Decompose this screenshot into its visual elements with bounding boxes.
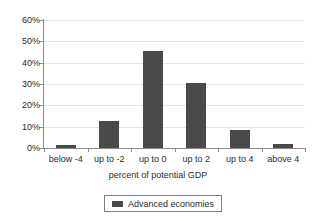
y-tick-label-0: 0%: [6, 144, 40, 153]
x-tick-label: up to 0: [131, 154, 175, 165]
x-tick-mark: [262, 148, 263, 152]
x-axis-title: percent of potential GDP: [0, 170, 316, 181]
x-tick-label: below -4: [44, 154, 88, 165]
y-tick-label-20: 20%: [6, 101, 40, 110]
x-tick-mark: [88, 148, 89, 152]
y-axis-labels: 60% 50% 40% 30% 20% 10% 0%: [4, 0, 40, 221]
bar-chart: 60% 50% 40% 30% 20% 10% 0% below -4up to…: [0, 0, 316, 221]
y-tick-label-10: 10%: [6, 123, 40, 132]
bar-slot: [262, 20, 306, 148]
bar-slot: [218, 20, 262, 148]
legend-label-advanced-economies: Advanced economies: [128, 199, 214, 209]
x-tick-label: above 4: [262, 154, 306, 165]
y-tick-label-30: 30%: [6, 80, 40, 89]
x-axis-labels: below -4up to -2up to 0up to 2up to 4abo…: [44, 154, 305, 165]
y-tick-label-50: 50%: [6, 37, 40, 46]
x-axis-ticks: [44, 148, 305, 153]
bar-slot: [131, 20, 175, 148]
bar: [99, 121, 119, 148]
bar-series-advanced-economies: [44, 20, 305, 148]
x-tick-mark: [131, 148, 132, 152]
bar-slot: [44, 20, 88, 148]
bar: [186, 83, 206, 148]
bar: [230, 130, 250, 148]
legend-swatch-icon: [112, 201, 123, 207]
x-tick-mark: [175, 148, 176, 152]
x-tick-label: up to -2: [88, 154, 132, 165]
y-tick-label-60: 60%: [6, 16, 40, 25]
x-tick-label: up to 4: [218, 154, 262, 165]
bar-slot: [88, 20, 132, 148]
bar-slot: [175, 20, 219, 148]
y-tick-label-40: 40%: [6, 59, 40, 68]
chart-legend: Advanced economies: [104, 195, 222, 212]
x-tick-mark: [305, 148, 306, 152]
x-tick-mark: [218, 148, 219, 152]
x-tick-mark: [44, 148, 45, 152]
bar: [143, 51, 163, 148]
x-tick-label: up to 2: [175, 154, 219, 165]
